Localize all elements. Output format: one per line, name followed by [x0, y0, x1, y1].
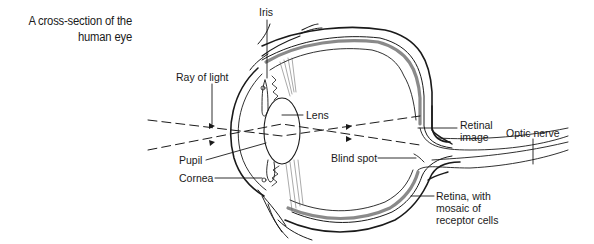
lens	[264, 98, 300, 164]
label-optic-nerve: Optic nerve	[506, 127, 560, 139]
sclera	[262, 27, 460, 232]
iris-bottom	[258, 160, 312, 240]
label-pupil: Pupil	[179, 154, 202, 166]
label-retinal-image-line2: image	[460, 131, 489, 143]
label-ray-of-light: Ray of light	[176, 71, 229, 83]
label-retina-line2: mosaic of	[436, 202, 481, 214]
arrow-icon	[346, 136, 352, 142]
label-cornea: Cornea	[179, 172, 214, 184]
light-rays	[148, 116, 420, 150]
retina-band	[266, 41, 420, 219]
label-blind-spot: Blind spot	[331, 152, 377, 164]
label-retina-line3: receptor cells	[436, 214, 498, 226]
arrow-icon	[346, 124, 352, 130]
arrow-icon	[209, 140, 215, 146]
label-iris: Iris	[259, 6, 273, 18]
label-retinal-image-line1: Retinal	[460, 119, 493, 131]
iris-top	[250, 24, 322, 116]
label-retina-line1: Retina, with	[436, 190, 491, 202]
label-lens: Lens	[306, 109, 329, 121]
leader-lines	[206, 20, 533, 196]
eye-diagram: Iris Ray of light Lens Pupil Cornea Blin…	[0, 0, 594, 244]
